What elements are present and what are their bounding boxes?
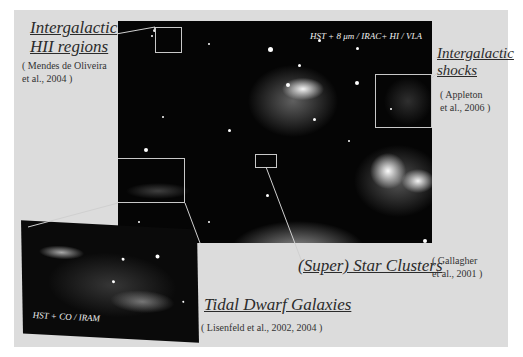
- star: [355, 81, 359, 85]
- inset-instrument-label: HST + CO / IRAM: [33, 310, 101, 324]
- star: [356, 47, 359, 50]
- citation-line: et al., 2004 ): [22, 72, 107, 85]
- shocks-citation: ( Appleton et al., 2006 ): [440, 88, 490, 114]
- star: [228, 129, 231, 132]
- star: [162, 116, 164, 118]
- citation-line: ( Lisenfeld et al., 2002, 2004 ): [201, 321, 322, 334]
- star: [138, 221, 140, 223]
- shocks-title-line2: shocks: [437, 62, 514, 79]
- star: [423, 239, 427, 243]
- star: [208, 221, 210, 223]
- shocks-title-line1: Intergalactic: [437, 45, 514, 62]
- tidal-dwarf-citation: ( Lisenfeld et al., 2002, 2004 ): [201, 321, 322, 334]
- star-clusters-title: (Super) Star Clusters: [298, 256, 443, 275]
- star: [286, 83, 290, 87]
- image-instrument-label: HST + 8 μm / IRAC+ HI / VLA: [310, 31, 422, 41]
- hii-regions-title-line1: Intergalactic: [30, 18, 117, 37]
- star: [112, 280, 115, 283]
- star: [122, 258, 125, 261]
- star: [182, 301, 184, 303]
- citation-line: ( Appleton: [440, 88, 490, 101]
- tidal-dwarf-title: Tidal Dwarf Galaxies: [204, 295, 351, 314]
- hii-region-highlight-box: [155, 27, 182, 53]
- citation-line: ( Gallagher: [432, 254, 482, 267]
- hii-regions-citation: ( Mendes de Oliveira et al., 2004 ): [22, 59, 107, 85]
- citation-line: ( Mendes de Oliveira: [22, 59, 107, 72]
- hii-regions-title-line2: HII regions: [30, 37, 117, 56]
- tidal-dwarf-inset-image: HST + CO / IRAM: [21, 220, 199, 342]
- star-clusters-title-line1: (Super) Star Clusters: [298, 256, 443, 275]
- tidal-dwarf-highlight-box: [118, 158, 185, 203]
- star: [298, 64, 301, 67]
- star: [144, 148, 148, 152]
- star: [155, 254, 159, 258]
- tidal-dwarf-title-line1: Tidal Dwarf Galaxies: [204, 295, 351, 314]
- star: [266, 194, 269, 197]
- star: [313, 118, 316, 121]
- citation-line: et al., 2006 ): [440, 101, 490, 114]
- star-clusters-citation: ( Gallagher et al., 2001 ): [432, 254, 482, 280]
- shocks-highlight-box: [375, 74, 432, 128]
- citation-line: et al., 2001 ): [432, 267, 482, 280]
- star: [208, 43, 210, 45]
- star-cluster-highlight-box: [255, 154, 277, 168]
- star: [268, 47, 273, 52]
- star: [348, 140, 350, 142]
- shocks-title: Intergalactic shocks: [437, 45, 514, 79]
- galaxy-group-image: HST + 8 μm / IRAC+ HI / VLA: [118, 21, 432, 243]
- star: [318, 39, 321, 42]
- star: [151, 35, 153, 37]
- hii-regions-title: Intergalactic HII regions: [30, 18, 117, 56]
